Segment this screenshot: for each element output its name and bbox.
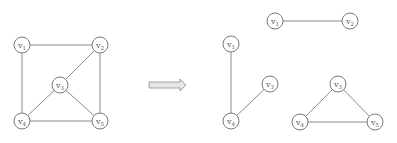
node-v5: v5	[367, 114, 383, 130]
node-v4: v4	[223, 113, 239, 129]
node-v3: v3	[262, 76, 278, 92]
node-v1: v1	[267, 13, 283, 29]
component-triangle-v3-v4-v5: v3v4v5	[292, 76, 383, 130]
node-v1: v1	[14, 37, 30, 53]
result-subgraphs: v1v2v1v3v4v3v4v5	[223, 13, 383, 130]
node-v4: v4	[292, 114, 308, 130]
original-graph: v1v2v3v4v5	[14, 37, 108, 129]
node-v3: v3	[330, 76, 346, 92]
node-v2: v2	[92, 37, 108, 53]
node-v5: v5	[92, 113, 108, 129]
graph-decomposition-diagram: v1v2v3v4v5 v1v2v1v3v4v3v4v5	[0, 0, 397, 143]
original-graph-body: v1v2v3v4v5	[14, 37, 108, 129]
node-v1: v1	[223, 36, 239, 52]
node-v3: v3	[52, 77, 68, 93]
node-v4: v4	[14, 113, 30, 129]
component-v1-v2: v1v2	[267, 13, 358, 29]
node-v2: v2	[342, 13, 358, 29]
transform-arrow	[149, 79, 186, 91]
component-v1-v4-v3: v1v3v4	[223, 36, 278, 129]
arrow-right-icon	[149, 79, 186, 91]
